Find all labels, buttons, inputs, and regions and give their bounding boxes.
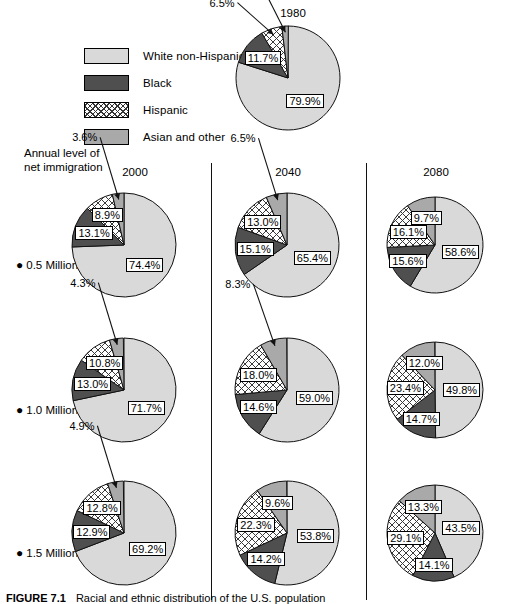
pie-2000-05-label-hispanic: 8.9%	[92, 208, 123, 222]
pie-2040-15-label-black: 14.2%	[247, 552, 284, 566]
pie-2040-05-label-white-non-hispanic: 65.4%	[294, 251, 331, 265]
year-title-2040: 2040	[263, 166, 313, 178]
year-title-1980: 1980	[268, 7, 318, 19]
row-label-1-5-million: ●1.5 Million	[16, 546, 78, 560]
pie-2040-05-label-asian-and-other: 6.5%	[230, 132, 255, 144]
legend-label-white: White non-Hispanic	[143, 50, 245, 62]
year-title-2000: 2000	[110, 166, 160, 178]
pie-2000-15-label-black: 12.9%	[73, 525, 110, 539]
row-label-text: 1.5 Million	[26, 547, 78, 559]
pie-2040-10-label-hispanic: 18.0%	[240, 368, 277, 382]
row-label-0-5-million: ●0.5 Million	[16, 258, 78, 272]
pie-2040-10-slice-asian-and-other	[261, 338, 287, 390]
row-bullet-icon: ●	[16, 258, 23, 272]
row-bullet-icon: ●	[16, 403, 23, 417]
pie-2080-10-label-white-non-hispanic: 49.8%	[443, 383, 480, 397]
pie-2040-05-label-hispanic: 13.0%	[244, 215, 281, 229]
row-label-1-0-million: ●1.0 Million	[16, 403, 78, 417]
year-title-2080: 2080	[411, 166, 461, 178]
pie-2000-10-label-white-non-hispanic: 71.7%	[128, 401, 165, 415]
pie-1980-label-white-non-hispanic: 79.9%	[286, 94, 323, 108]
pie-2040-10-label-asian-and-other: 8.3%	[225, 278, 250, 290]
legend-label-black: Black	[143, 77, 172, 89]
legend-swatch-hispanic-icon	[84, 102, 129, 118]
pie-1980-label-black: 11.7%	[245, 51, 281, 65]
pie-1980-slice-asian-and-other	[282, 26, 289, 78]
figure-caption-text: Racial and ethnic distribution of the U.…	[76, 592, 326, 604]
pie-2000-10-label-black: 13.0%	[74, 377, 111, 391]
pie-2080-05-label-hispanic: 16.1%	[390, 225, 427, 239]
column-divider-left	[211, 163, 212, 600]
pie-2080-15-label-asian-and-other: 13.3%	[405, 500, 442, 514]
pie-2000-05-label-asian-and-other: 3.6%	[72, 131, 97, 143]
pie-2040-05-label-black: 15.1%	[237, 242, 274, 256]
pie-2040-10-label-black: 14.6%	[240, 400, 277, 414]
row-label-text: 0.5 Million	[26, 259, 78, 271]
pie-1980-label-hispanic: 6.5%	[209, 0, 234, 9]
pie-2000-15-label-asian-and-other: 4.9%	[69, 420, 94, 432]
annual-immigration-caption: Annual level of net immigration	[24, 146, 103, 174]
legend-swatch-black-icon	[84, 75, 129, 91]
legend-label-asian: Asian and other	[143, 131, 225, 143]
legend-swatch-white-icon	[84, 48, 129, 64]
legend-item-hispanic: Hispanic	[84, 98, 245, 121]
legend-item-white: White non-Hispanic	[84, 44, 245, 67]
pie-2000-15-label-hispanic: 12.8%	[83, 501, 120, 515]
pie-1980-slice-white-non-hispanic	[236, 26, 340, 130]
row-label-text: 1.0 Million	[26, 404, 78, 416]
pie-2000-05-label-white-non-hispanic: 74.4%	[126, 258, 163, 272]
pie-2080-10-label-hispanic: 23.4%	[387, 381, 424, 395]
legend-item-black: Black	[84, 71, 245, 94]
pie-2080-15-label-white-non-hispanic: 43.5%	[442, 521, 479, 535]
row-bullet-icon: ●	[16, 546, 23, 560]
legend-label-hispanic: Hispanic	[143, 104, 188, 116]
pie-2080-05-label-black: 15.6%	[389, 254, 426, 268]
pie-2080-05-label-white-non-hispanic: 58.6%	[442, 245, 479, 259]
pie-2080-15-label-hispanic: 29.1%	[387, 531, 424, 545]
column-divider-right	[366, 163, 367, 600]
figure-caption: FIGURE 7.1Racial and ethnic distribution…	[6, 592, 325, 604]
pie-2080-10-label-black: 14.7%	[403, 412, 440, 426]
pie-2080-10-label-asian-and-other: 12.0%	[406, 356, 443, 370]
pie-2000-05-label-black: 13.1%	[75, 226, 112, 240]
pie-2000-10-label-hispanic: 10.8%	[86, 356, 123, 370]
pie-2040-15-label-white-non-hispanic: 53.8%	[297, 529, 334, 543]
pie-2000-10-label-asian-and-other: 4.3%	[70, 277, 95, 289]
pie-2080-05-label-asian-and-other: 9.7%	[411, 211, 442, 225]
pie-2000-15-label-white-non-hispanic: 69.2%	[129, 542, 166, 556]
pie-2040-15-label-asian-and-other: 9.6%	[262, 496, 293, 510]
legend-item-asian: Asian and other	[84, 125, 245, 148]
legend: White non-Hispanic Black Hispanic Asian …	[84, 44, 245, 152]
figure-number: FIGURE 7.1	[6, 592, 66, 604]
pie-2080-15-label-black: 14.1%	[415, 558, 452, 572]
pie-2040-10-label-white-non-hispanic: 59.0%	[296, 391, 333, 405]
pie-2040-15-label-hispanic: 22.3%	[237, 518, 274, 532]
